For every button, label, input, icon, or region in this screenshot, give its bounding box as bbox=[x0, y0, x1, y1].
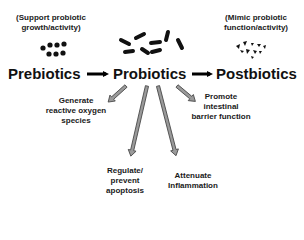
effect-promote-barrier-line1: Promote bbox=[183, 92, 259, 102]
arrow-to-regulate-apoptosis bbox=[127, 85, 151, 157]
effect-generate-ros: Generate reactive oxygen species bbox=[40, 96, 112, 126]
effect-promote-barrier-line3: barrier function bbox=[183, 112, 259, 122]
node-prebiotics: Prebiotics bbox=[8, 65, 81, 82]
effect-generate-ros-line2: reactive oxygen bbox=[40, 106, 112, 116]
node-probiotics: Probiotics bbox=[113, 65, 186, 82]
effect-promote-barrier-line2: intestinal bbox=[183, 102, 259, 112]
effect-regulate-apoptosis-line3: apoptosis bbox=[94, 186, 156, 196]
fragments-cluster-icon bbox=[236, 41, 266, 59]
effect-attenuate-inflammation: Attenuate Inflammation bbox=[160, 171, 226, 191]
effect-regulate-apoptosis: Regulate/ prevent apoptosis bbox=[94, 166, 156, 196]
effect-regulate-apoptosis-line1: Regulate/ bbox=[94, 166, 156, 176]
rod-bacteria-icon bbox=[121, 32, 182, 53]
effect-attenuate-inflammation-line1: Attenuate bbox=[160, 171, 226, 181]
effect-attenuate-inflammation-line2: Inflammation bbox=[160, 181, 226, 191]
effect-generate-ros-line3: species bbox=[40, 116, 112, 126]
effect-regulate-apoptosis-line2: prevent bbox=[94, 176, 156, 186]
effect-generate-ros-line1: Generate bbox=[40, 96, 112, 106]
dots-cluster-icon bbox=[40, 41, 66, 56]
effect-promote-barrier: Promote intestinal barrier function bbox=[183, 92, 259, 122]
node-postbiotics: Postbiotics bbox=[216, 65, 297, 82]
arrow-to-attenuate-inflammation bbox=[154, 85, 180, 157]
